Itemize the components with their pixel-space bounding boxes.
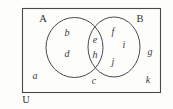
region-label-i: i: [123, 40, 126, 50]
region-label-f: f: [112, 27, 115, 37]
region-label-e: e: [93, 35, 97, 45]
region-label-j: j: [112, 57, 115, 67]
region-label-a: a: [33, 71, 38, 81]
region-label-d: d: [65, 49, 70, 59]
region-label-c: c: [92, 76, 96, 86]
region-label-b: b: [65, 28, 70, 38]
region-label-g: g: [148, 47, 153, 57]
venn-diagram-figure: A B U a b d e h f i j c g k: [0, 0, 173, 109]
set-b-label: B: [136, 14, 143, 25]
universal-set-label: U: [22, 95, 30, 106]
set-a-label: A: [39, 14, 47, 25]
region-label-h: h: [93, 50, 98, 60]
region-label-k: k: [146, 75, 150, 85]
